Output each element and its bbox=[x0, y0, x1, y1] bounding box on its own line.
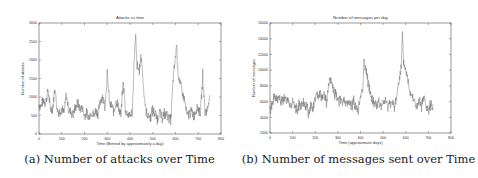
y-tick-label: 14000 bbox=[258, 37, 268, 41]
y-tick-label: 16000 bbox=[258, 21, 268, 25]
x-tick-label: 0 bbox=[269, 136, 271, 140]
y-tick-label: 2000 bbox=[29, 58, 37, 62]
x-tick-label: 400 bbox=[127, 137, 133, 141]
y-tick-label: 1000 bbox=[29, 95, 37, 99]
x-tick-label: 100 bbox=[59, 137, 65, 141]
x-tick-label: 200 bbox=[82, 137, 88, 141]
y-tick-label: 1500 bbox=[29, 77, 37, 81]
caption-attacks: (a) Number of attacks over Time bbox=[0, 152, 239, 166]
x-tick-label: 100 bbox=[290, 136, 296, 140]
x-tick-label: 200 bbox=[312, 136, 318, 140]
x-tick-label: 400 bbox=[358, 136, 364, 140]
x-tick-label: 700 bbox=[425, 136, 431, 140]
data-series-line bbox=[270, 32, 433, 119]
x-axis-label: Time (approximate days) bbox=[338, 140, 383, 145]
caption-messages: (b) Number of messages sent over Time bbox=[239, 152, 478, 166]
x-tick-label: 300 bbox=[104, 137, 110, 141]
x-tick-label: 600 bbox=[173, 137, 179, 141]
x-tick-label: 700 bbox=[195, 137, 201, 141]
y-tick-label: 4000 bbox=[260, 116, 268, 120]
x-tick-label: 500 bbox=[380, 136, 386, 140]
chart-panel-messages: Number of messages per day01002003004005… bbox=[239, 0, 478, 178]
y-tick-label: 500 bbox=[31, 114, 37, 118]
y-tick-label: 6000 bbox=[260, 100, 268, 104]
y-tick-label: 10000 bbox=[258, 68, 268, 72]
chart-panel-attacks: Attacks vs time0100200300400500600700800… bbox=[0, 0, 239, 178]
y-tick-label: 2000 bbox=[260, 131, 268, 135]
chart-title: Attacks vs time bbox=[116, 15, 145, 20]
x-tick-label: 500 bbox=[150, 137, 156, 141]
y-axis-label: Number of attacks bbox=[20, 62, 25, 94]
x-tick-label: 600 bbox=[403, 136, 409, 140]
x-tick-label: 800 bbox=[448, 136, 454, 140]
y-tick-label: 0 bbox=[35, 132, 37, 136]
x-tick-label: 0 bbox=[38, 137, 40, 141]
x-axis-label: Time (Binned by approximately a day) bbox=[96, 141, 164, 146]
chart-title: Number of messages per day bbox=[333, 15, 389, 20]
y-tick-label: 8000 bbox=[260, 84, 268, 88]
y-tick-label: 3000 bbox=[29, 21, 37, 25]
x-tick-label: 300 bbox=[335, 136, 341, 140]
y-tick-label: 12000 bbox=[258, 53, 268, 57]
plot-frame bbox=[270, 23, 451, 133]
y-tick-label: 2500 bbox=[29, 40, 37, 44]
data-series-line bbox=[39, 34, 210, 125]
y-axis-label: Number of messages bbox=[251, 59, 256, 97]
x-tick-label: 800 bbox=[218, 137, 224, 141]
